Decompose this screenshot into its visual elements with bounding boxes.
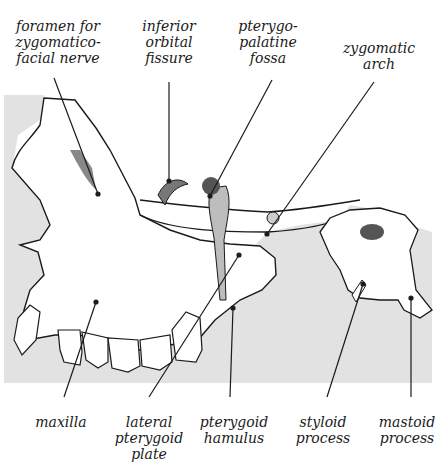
label-mastoid-process: mastoid process <box>374 414 440 446</box>
fossa-shadow <box>202 177 220 195</box>
label-zygomatic-arch: zygomatic arch <box>336 40 422 72</box>
label-styloid-process: styloid process <box>292 414 354 446</box>
anatomy-figure: foramen for zygomatico- facial nerve inf… <box>0 0 443 469</box>
tubercle <box>267 212 279 224</box>
label-foramen-zygomaticofacial: foramen for zygomatico- facial nerve <box>4 18 112 66</box>
label-lateral-pterygoid-plate: lateral pterygoid plate <box>112 414 186 462</box>
label-maxilla: maxilla <box>28 414 94 430</box>
external-acoustic-meatus <box>360 224 384 240</box>
label-pterygoid-hamulus: pterygoid hamulus <box>196 414 272 446</box>
label-pterygopalatine-fossa: pterygo- palatine fossa <box>232 18 304 66</box>
label-inferior-orbital-fissure: inferior orbital fissure <box>132 18 206 66</box>
